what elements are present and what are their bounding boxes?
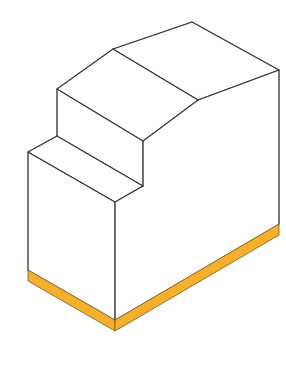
diagram-canvas [0, 0, 286, 380]
isometric-block-drawing [0, 0, 286, 380]
